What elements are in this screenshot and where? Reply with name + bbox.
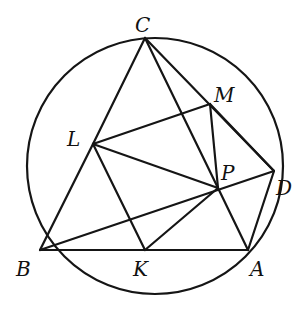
label-K: K xyxy=(132,257,149,281)
segment-BD xyxy=(40,171,274,250)
label-L: L xyxy=(66,127,80,151)
label-M: M xyxy=(213,83,235,107)
segment-PA xyxy=(218,188,248,250)
label-B: B xyxy=(15,257,31,281)
label-C: C xyxy=(135,13,150,37)
geometry-diagram: C M L P D B K A xyxy=(0,0,303,310)
label-D: D xyxy=(275,176,292,200)
label-P: P xyxy=(220,161,235,185)
segment-KP xyxy=(145,188,218,250)
label-A: A xyxy=(248,257,264,281)
segment-MD xyxy=(210,104,274,171)
